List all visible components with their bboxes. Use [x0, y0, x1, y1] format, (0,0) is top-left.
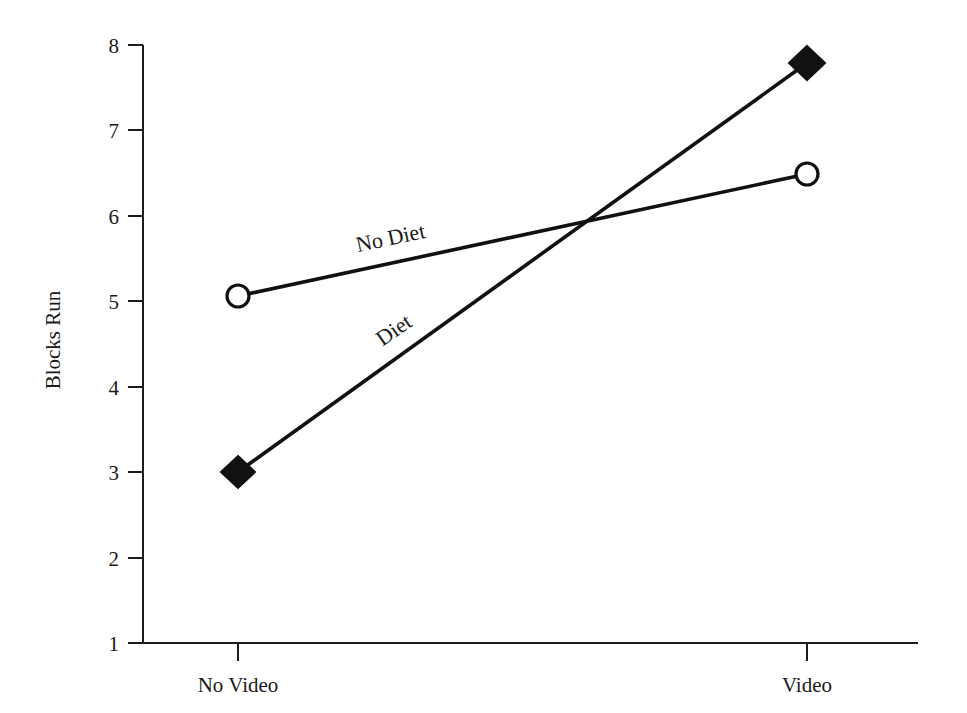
series-no-diet: No Diet — [227, 163, 818, 307]
series-label-no-diet: No Diet — [353, 218, 427, 257]
x-tick-label-video: Video — [782, 673, 832, 697]
series-diet-line — [238, 63, 807, 472]
data-point-diet-video[interactable] — [789, 46, 825, 80]
chart-container: Blocks Run 8 7 6 5 4 3 2 1 — [0, 0, 967, 713]
y-tick-label-6: 6 — [109, 205, 120, 229]
x-axis-ticks: No Video Video — [198, 643, 832, 697]
line-chart: Blocks Run 8 7 6 5 4 3 2 1 — [0, 0, 967, 713]
y-tick-label-8: 8 — [109, 34, 120, 58]
y-tick-label-5: 5 — [109, 290, 120, 314]
y-tick-label-4: 4 — [109, 376, 120, 400]
y-tick-label-3: 3 — [109, 461, 120, 485]
y-tick-label-2: 2 — [109, 547, 120, 571]
y-tick-label-1: 1 — [109, 632, 120, 656]
x-tick-label-no-video: No Video — [198, 673, 279, 697]
data-point-no-diet-no-video[interactable] — [227, 285, 249, 307]
y-axis-ticks: 8 7 6 5 4 3 2 1 — [109, 34, 144, 656]
series-no-diet-line — [238, 174, 807, 296]
series-label-diet: Diet — [371, 309, 416, 351]
series-diet: Diet — [221, 46, 825, 488]
data-point-no-diet-video[interactable] — [796, 163, 818, 185]
y-axis-title: Blocks Run — [41, 290, 65, 389]
data-point-diet-no-video[interactable] — [221, 456, 255, 488]
y-tick-label-7: 7 — [109, 119, 120, 143]
